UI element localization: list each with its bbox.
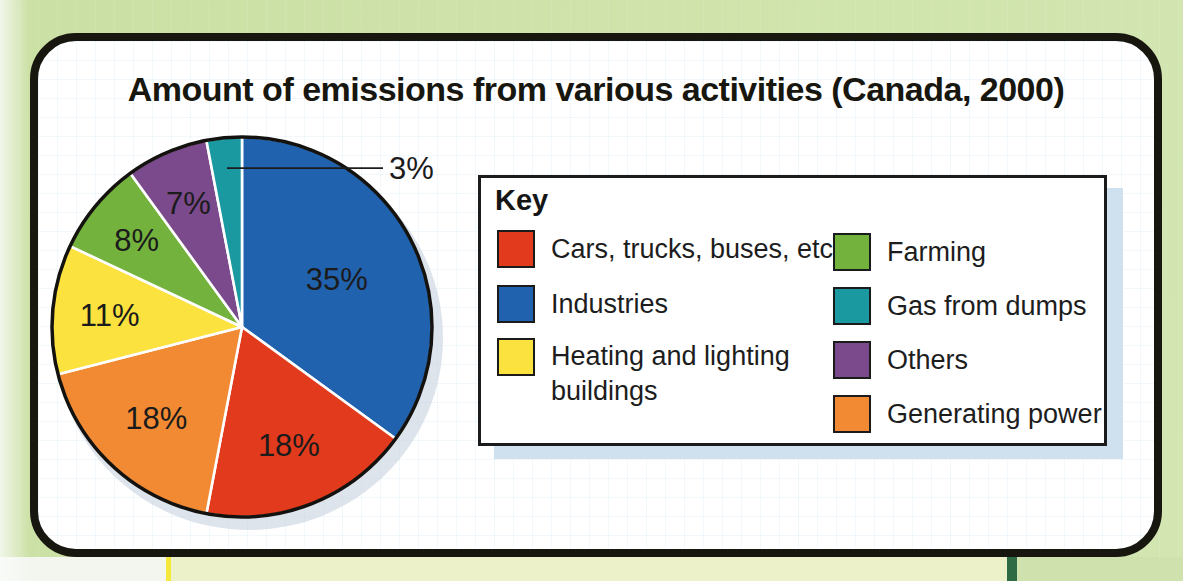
swatch-industries [497, 285, 535, 323]
key-row-cars: Cars, trucks, buses, etc. [497, 230, 841, 268]
emissions-pie-chart: 35%18%18%11%8%7%3% [32, 117, 452, 537]
percent-label-others: 7% [166, 186, 211, 221]
key-row-gas-dumps: Gas from dumps [833, 287, 1087, 325]
key-heading: Key [495, 184, 548, 217]
key-label-industries: Industries [551, 285, 668, 323]
swatch-others [833, 341, 871, 379]
key-box: Key Cars, trucks, buses, etc. Industries… [478, 175, 1107, 446]
key-label-cars: Cars, trucks, buses, etc. [551, 230, 841, 268]
swatch-heating-lighting [497, 338, 535, 376]
key-row-industries: Industries [497, 285, 668, 323]
percent-label-cars-trucks-buses-etc: 18% [258, 428, 320, 463]
percent-label-heating-and-lighting-buildings: 11% [80, 298, 140, 333]
key-row-heating: Heating and lighting buildings [497, 338, 816, 409]
key-label-gas-dumps: Gas from dumps [887, 287, 1087, 325]
swatch-cars-trucks-buses [497, 230, 535, 268]
swatch-gas-from-dumps [833, 287, 871, 325]
key-row-others: Others [833, 341, 968, 379]
key-label-others: Others [887, 341, 968, 379]
percent-label-gas-from-dumps: 3% [389, 151, 434, 186]
key-label-heating: Heating and lighting buildings [551, 338, 816, 409]
percent-label-farming: 8% [114, 223, 159, 258]
key-row-generating: Generating power [833, 395, 1102, 433]
page-background: Amount of emissions from various activit… [0, 0, 1183, 581]
page-bleed-right-green [1017, 557, 1183, 581]
pie-chart-area: 35%18%18%11%8%7%3% [32, 117, 452, 537]
page-bleed-pale-yellow [171, 557, 1007, 581]
key-row-farming: Farming [833, 233, 986, 271]
key-label-generating: Generating power [887, 395, 1102, 433]
key-label-farming: Farming [887, 233, 986, 271]
percent-label-generating-power: 18% [125, 401, 187, 436]
figure-title: Amount of emissions from various activit… [30, 70, 1162, 109]
percent-label-industries: 35% [306, 262, 368, 297]
swatch-farming [833, 233, 871, 271]
page-bleed-green-line [1007, 557, 1017, 581]
swatch-generating-power [833, 395, 871, 433]
